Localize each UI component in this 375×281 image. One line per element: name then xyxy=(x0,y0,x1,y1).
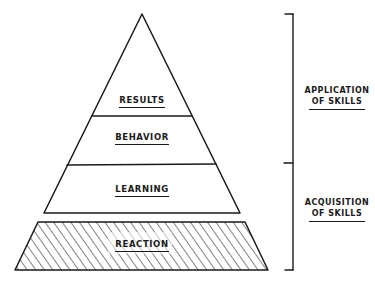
level-label-behavior: BEHAVIOR xyxy=(107,132,177,145)
group-label-acquisition: ACQUISITION OF SKILLS xyxy=(297,197,375,222)
group-label-application: APPLICATION OF SKILLS xyxy=(297,85,375,110)
level-label-results: RESULTS xyxy=(112,95,172,108)
level-label-reaction: REACTION xyxy=(107,239,177,252)
skills-bracket xyxy=(284,14,293,270)
level-label-learning: LEARNING xyxy=(107,184,177,197)
divider-behavior-learning xyxy=(67,164,216,165)
pyramid-drawing xyxy=(0,0,375,281)
